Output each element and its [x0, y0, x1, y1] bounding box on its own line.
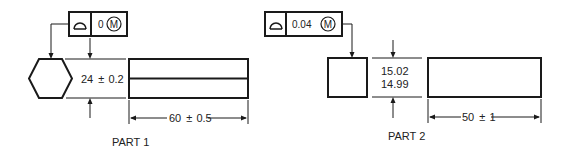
arrow-left-icon	[130, 116, 136, 121]
arrow-down-icon	[88, 53, 93, 59]
part1-length-dimension: 60 ± 0.5	[169, 112, 212, 124]
mmc-modifier-icon: M	[110, 19, 118, 30]
square-cross-section	[328, 58, 367, 97]
part1-label: PART 1	[112, 136, 149, 148]
part1-size-dimension: 24 ± 0.2	[81, 73, 124, 85]
part2-size-lower: 14.99	[381, 78, 409, 90]
profile-of-a-line-icon	[270, 23, 282, 29]
part2-feature-control-frame: 0.04 M	[265, 12, 342, 36]
arrow-down-icon	[391, 52, 396, 58]
part2-label: PART 2	[388, 130, 425, 142]
part1-leader-line	[51, 24, 69, 55]
part1-tolerance-value: 0	[98, 19, 104, 30]
part2-side-view	[428, 58, 541, 97]
part2-group: 0.04 M 15.02 14.99 50 ± 1	[265, 12, 541, 142]
arrow-up-icon	[391, 97, 396, 103]
mmc-modifier-icon: M	[324, 19, 332, 30]
part1-feature-control-frame: 0 M	[69, 12, 127, 36]
hexagon-cross-section	[29, 59, 72, 98]
arrow-up-icon	[88, 98, 93, 104]
arrow-right-icon	[534, 115, 540, 120]
part2-length-dimension: 50 ± 1	[462, 111, 496, 123]
part2-tolerance-value: 0.04	[292, 19, 312, 30]
part2-size-upper: 15.02	[381, 65, 409, 77]
part1-group: 0 M 24 ± 0.2 60	[29, 12, 248, 148]
arrow-right-icon	[241, 116, 247, 121]
part2-leader-line	[342, 24, 352, 53]
profile-of-a-line-icon	[74, 23, 86, 29]
drawing-canvas: 0 M 24 ± 0.2 60	[0, 0, 568, 155]
arrow-left-icon	[429, 115, 435, 120]
